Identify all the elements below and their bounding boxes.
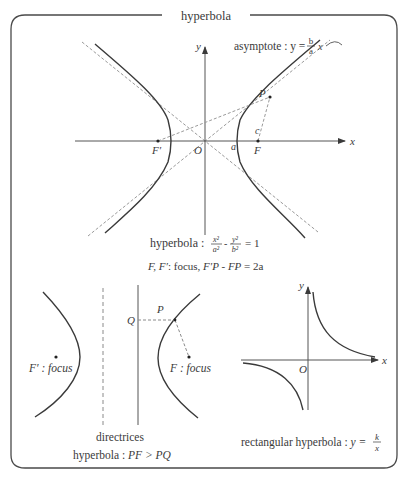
x-axis-label: x [381, 354, 387, 366]
vertex-a-label: a [231, 141, 236, 152]
eq-x-num: x² [212, 235, 220, 244]
asymptote-label: asymptote : y = [234, 40, 305, 53]
main-hyperbola-diagram: x y O a F F′ P c asymptote : y = b a x h… [75, 36, 355, 272]
focus-f-dot [256, 139, 259, 142]
third-quadrant-branch [243, 363, 303, 410]
eq-minus: - [224, 238, 227, 249]
left-branch-curve [95, 44, 171, 233]
hyperbola-figure: hyperbola x y O a F F′ P c asymptote : y… [0, 0, 410, 482]
y-axis-label: y [298, 279, 304, 291]
first-quadrant-branch [313, 292, 375, 357]
figure-title: hyperbola [181, 9, 231, 23]
left-focus-label: F′ : focus [28, 362, 73, 375]
right-branch-curve [158, 294, 200, 418]
eq-y-num: y² [231, 235, 239, 244]
frac-num: k [375, 432, 380, 442]
focus-fprime-dot [156, 139, 159, 142]
c-label: c [255, 125, 260, 136]
focus-f-label: F [253, 144, 261, 156]
asymptote-pointer-icon [326, 42, 342, 46]
asymptote-frac-den: a [309, 46, 313, 56]
eq-x-den: a² [213, 245, 220, 254]
point-p-dot [174, 319, 177, 322]
y-axis-label: y [195, 40, 201, 52]
foci-caption: F, F′: focus, F′P - FP = 2a [147, 260, 264, 272]
asymptote-var: x [317, 41, 323, 52]
origin-label: O [299, 363, 307, 375]
x-axis-label: x [349, 135, 355, 147]
point-p-dot [268, 95, 271, 98]
frac-den: x [374, 443, 379, 453]
q-label: Q [127, 314, 135, 326]
directrices-caption: directrices [96, 431, 144, 443]
origin-label: O [194, 144, 202, 156]
left-branch-curve [35, 292, 80, 417]
focus-fprime-dot [54, 355, 57, 358]
eq-rhs: = 1 [245, 237, 259, 249]
right-branch-curve [237, 40, 320, 238]
focus-fprime-label: F′ [151, 144, 162, 156]
segment-pf [175, 320, 189, 357]
right-focus-label: F : focus [169, 362, 211, 375]
directrix-relation-caption: hyperbola : PF > PQ [73, 449, 172, 462]
eq-y-den: b² [232, 245, 239, 254]
asymptote-frac-num: b [309, 36, 314, 46]
rectangular-caption: rectangular hyperbola : y = [241, 436, 366, 449]
segment-f-p [258, 97, 270, 141]
directrix-diagram: Q P F′ : focus F : focus directrices hyp… [28, 285, 211, 462]
rectangular-hyperbola-diagram: x y O rectangular hyperbola : y = k x [241, 279, 387, 453]
point-p-label: P [258, 87, 266, 99]
asymptote-line-negative [82, 42, 318, 232]
equation-prefix: hyperbola : [150, 236, 204, 250]
p-label: P [156, 303, 164, 315]
